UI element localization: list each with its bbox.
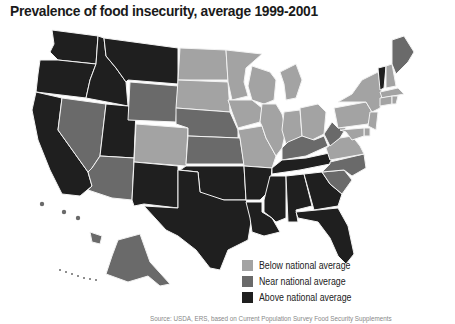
hawaii-island — [62, 210, 66, 214]
us-choropleth-map — [0, 0, 455, 324]
state-nm — [132, 162, 178, 208]
state-mi — [280, 64, 302, 100]
state-sd — [176, 80, 230, 112]
hawaii-island — [40, 202, 44, 206]
hawaii-island — [76, 216, 80, 220]
state-wa — [50, 30, 98, 64]
aleutian-island — [77, 275, 79, 277]
legend-swatch-near — [242, 276, 253, 287]
legend-item-near: Near national average — [242, 273, 364, 289]
state-ri — [392, 96, 398, 104]
state-ak — [106, 234, 170, 286]
legend-label-near: Near national average — [259, 276, 346, 287]
legend-swatch-above — [242, 292, 253, 303]
state-hi — [90, 232, 102, 244]
aleutian-island — [59, 269, 61, 271]
state-nj — [368, 112, 378, 130]
aleutian-island — [83, 277, 85, 279]
aleutian-island — [71, 273, 73, 275]
aleutian-island — [65, 271, 67, 273]
state-nd — [178, 48, 228, 80]
state-me — [392, 36, 414, 74]
legend-label-above: Above national average — [259, 292, 351, 303]
aleutian-island — [95, 279, 97, 281]
state-oh — [300, 104, 326, 140]
footnote: Source: USDA, ERS, based on Current Popu… — [150, 315, 392, 322]
state-pa — [334, 102, 372, 128]
state-de — [364, 128, 370, 136]
aleutian-island — [89, 278, 91, 280]
legend: Below national average Near national ave… — [242, 257, 364, 305]
state-vt — [378, 66, 386, 90]
legend-swatch-below — [242, 260, 253, 271]
state-ct — [380, 96, 392, 106]
state-wy — [128, 82, 178, 122]
state-fl — [296, 208, 354, 264]
state-wi — [248, 66, 276, 104]
state-ks — [186, 136, 244, 164]
legend-item-above: Above national average — [242, 289, 364, 305]
state-co — [134, 124, 188, 166]
legend-item-below: Below national average — [242, 257, 364, 273]
legend-label-below: Below national average — [259, 260, 350, 271]
